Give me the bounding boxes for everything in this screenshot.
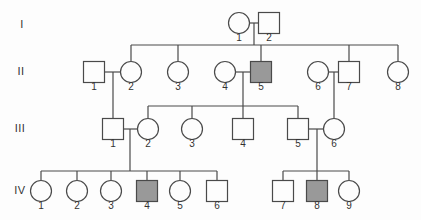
individual-label-IV-3: 3 bbox=[108, 200, 114, 211]
individual-IV-9 bbox=[339, 181, 360, 202]
individual-label-III-1: 1 bbox=[110, 138, 116, 149]
individual-label-I-2: 2 bbox=[266, 32, 272, 43]
individual-label-I-1: 1 bbox=[236, 32, 242, 43]
individual-I-2 bbox=[259, 13, 280, 34]
individual-IV-7 bbox=[273, 181, 294, 202]
individual-III-3 bbox=[182, 119, 203, 140]
individual-IV-3 bbox=[101, 181, 122, 202]
individual-III-4 bbox=[233, 119, 254, 140]
individual-label-II-3: 3 bbox=[175, 81, 181, 92]
individual-label-IV-1: 1 bbox=[38, 200, 44, 211]
individual-label-IV-6: 6 bbox=[214, 200, 220, 211]
individual-II-5-affected bbox=[251, 62, 272, 83]
individual-II-6 bbox=[308, 62, 329, 83]
individual-III-1 bbox=[103, 119, 124, 140]
individual-label-II-6: 6 bbox=[315, 81, 321, 92]
individual-label-II-2: 2 bbox=[128, 81, 134, 92]
individual-label-III-6: 6 bbox=[331, 138, 337, 149]
individual-label-III-5: 5 bbox=[295, 138, 301, 149]
individual-label-IV-9: 9 bbox=[346, 200, 352, 211]
individual-III-5 bbox=[288, 119, 309, 140]
pedigree-figure: 1212345678123456123456789IIIIIIIV bbox=[0, 0, 421, 220]
individual-II-4 bbox=[215, 62, 236, 83]
individual-label-IV-8: 8 bbox=[314, 200, 320, 211]
individual-label-II-8: 8 bbox=[395, 81, 401, 92]
individual-III-2 bbox=[138, 119, 159, 140]
generation-label-III: III bbox=[15, 122, 26, 134]
individual-III-6 bbox=[324, 119, 345, 140]
individual-II-3 bbox=[168, 62, 189, 83]
individual-label-II-7: 7 bbox=[346, 81, 352, 92]
individual-label-IV-5: 5 bbox=[177, 200, 183, 211]
individual-II-8 bbox=[388, 62, 409, 83]
individual-label-IV-4: 4 bbox=[144, 200, 150, 211]
individual-label-III-2: 2 bbox=[145, 138, 151, 149]
individual-label-III-3: 3 bbox=[189, 138, 195, 149]
individual-IV-4-affected bbox=[137, 181, 158, 202]
individual-I-1 bbox=[229, 13, 250, 34]
individual-label-II-5: 5 bbox=[258, 81, 264, 92]
individual-IV-1 bbox=[31, 181, 52, 202]
individual-IV-8-affected bbox=[307, 181, 328, 202]
generation-label-IV: IV bbox=[14, 184, 26, 196]
pedigree-chart: 1212345678123456123456789IIIIIIIV bbox=[0, 0, 421, 220]
individual-IV-2 bbox=[67, 181, 88, 202]
individual-II-1 bbox=[84, 62, 105, 83]
individual-label-II-1: 1 bbox=[91, 81, 97, 92]
individual-IV-5 bbox=[170, 181, 191, 202]
individual-label-IV-2: 2 bbox=[74, 200, 80, 211]
individual-label-IV-7: 7 bbox=[280, 200, 286, 211]
individual-II-2 bbox=[121, 62, 142, 83]
generation-label-II: II bbox=[17, 65, 24, 77]
individual-label-III-4: 4 bbox=[240, 138, 246, 149]
generation-label-I: I bbox=[20, 18, 24, 30]
individual-II-7 bbox=[339, 62, 360, 83]
individual-label-II-4: 4 bbox=[222, 81, 228, 92]
individual-IV-6 bbox=[207, 181, 228, 202]
